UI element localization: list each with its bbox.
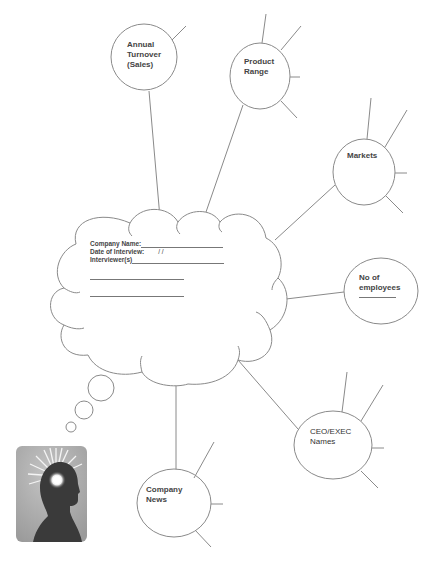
node-label-company-news: Company News <box>146 485 182 505</box>
node-label-markets: Markets <box>347 151 377 161</box>
node-label-product-range: Product Range <box>244 57 274 77</box>
node-label-annual-turnover: Annual Turnover (Sales) <box>127 40 161 70</box>
form-row-company-name: Company Name: <box>90 240 224 248</box>
thought-cloud <box>51 209 288 385</box>
thought-bubble-medium <box>75 401 93 419</box>
form-row-date: Date of Interview: / / <box>90 248 224 256</box>
interviewers-field[interactable] <box>132 263 224 264</box>
date-of-interview-field[interactable]: / / <box>158 248 163 256</box>
interview-form: Company Name: Date of Interview: / / Int… <box>90 240 224 264</box>
interviewers-label: Interviewer(s) <box>90 256 132 264</box>
node-markets-circle <box>333 139 395 205</box>
cloud-blank-line-1[interactable] <box>90 279 184 280</box>
employees-blank-line[interactable] <box>359 297 396 298</box>
company-name-field[interactable] <box>141 247 223 248</box>
connector-ceo-exec <box>238 360 298 429</box>
connector-markets <box>275 185 335 240</box>
thought-bubble-small <box>66 422 76 432</box>
node-label-ceo-exec: CEO/EXEC Names <box>310 427 351 447</box>
head-silhouette-illustration <box>16 446 87 542</box>
form-row-interviewers: Interviewer(s) <box>90 256 224 264</box>
connector-product-range <box>206 105 243 212</box>
company-name-label: Company Name: <box>90 240 141 248</box>
connector-no-of-employees <box>286 292 344 299</box>
thought-bubble-large <box>88 375 114 401</box>
node-label-no-of-employees: No of employees <box>359 273 400 293</box>
connector-annual-turnover <box>149 91 160 218</box>
cloud-blank-line-2[interactable] <box>90 296 184 297</box>
date-of-interview-label: Date of Interview: <box>90 248 144 256</box>
